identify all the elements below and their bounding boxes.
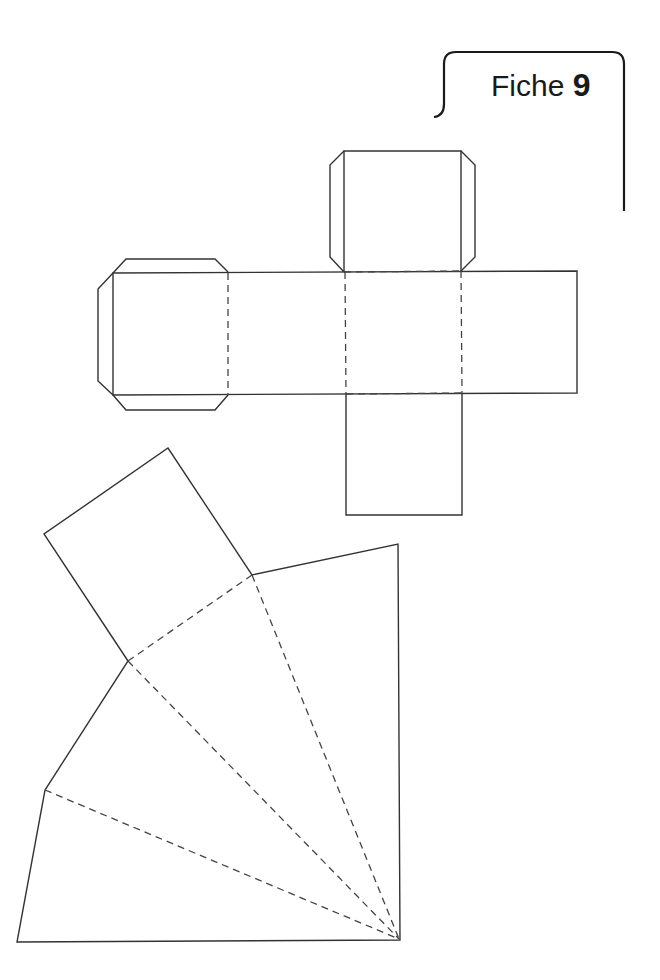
sheet-number: 9 xyxy=(573,67,591,103)
pyramid-fold-base xyxy=(128,575,252,661)
cube-face-top xyxy=(344,151,461,272)
worksheet-page: Fiche 9 xyxy=(0,0,660,980)
pyramid-net xyxy=(17,448,400,942)
cube-tab-left xyxy=(98,273,113,395)
pyramid-fold-edge xyxy=(45,790,399,939)
cube-net xyxy=(98,151,577,515)
cube-face-bottom xyxy=(346,393,462,515)
cube-tab-bottom-left xyxy=(113,395,228,410)
pyramid-fold-edge xyxy=(252,575,399,939)
pyramid-fold-edge xyxy=(128,661,399,939)
cube-fold-line xyxy=(345,272,346,394)
sheet-title: Fiche 9 xyxy=(491,67,591,104)
cube-fold-line xyxy=(461,271,462,393)
cube-tab-top-face-left xyxy=(330,151,344,272)
cube-tab-top-left xyxy=(113,259,228,273)
cube-tab-top-face-right xyxy=(461,151,475,271)
sheet-title-label: Fiche xyxy=(491,69,564,102)
pyramid-outline xyxy=(17,448,400,942)
drawing-canvas xyxy=(0,0,660,980)
